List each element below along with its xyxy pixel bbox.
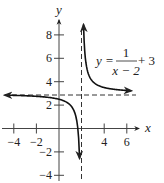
equation-denominator: x − 2 — [111, 63, 140, 78]
equation-lhs: y = — [94, 53, 114, 68]
equation-numerator: 1 — [123, 45, 130, 60]
function-curves — [5, 25, 132, 159]
asymptotes — [12, 30, 136, 182]
y-tick-label: 4 — [46, 75, 52, 89]
x-tick-label: 6 — [124, 135, 130, 149]
y-tick-label: −4 — [39, 168, 52, 182]
y-tick-label: −2 — [39, 145, 52, 159]
axes — [2, 20, 139, 181]
equation-suffix: + 3 — [138, 53, 155, 68]
y-tick-label: 6 — [46, 51, 52, 65]
rational-function-graph: x y −4−2468642−2−4 y = 1 x − 2 + 3 — [0, 0, 164, 183]
y-tick-label: 2 — [46, 98, 52, 112]
y-tick-label: 8 — [46, 28, 52, 42]
x-tick-label: 4 — [101, 135, 107, 149]
x-axis-label: x — [144, 120, 151, 135]
equation-label: y = 1 x − 2 + 3 — [94, 45, 155, 78]
axis-ticks: −4−2468642−2−4 — [7, 28, 129, 182]
y-axis-label: y — [54, 2, 62, 17]
x-tick-label: −4 — [7, 135, 20, 149]
